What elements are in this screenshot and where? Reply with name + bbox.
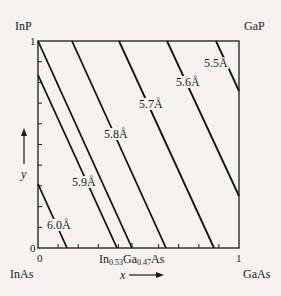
- label-5.9A: 5.9Å: [71, 176, 97, 188]
- x-tick-label-1: 1: [236, 252, 242, 264]
- line-5.8A: [72, 41, 166, 248]
- composition-marker: In0.53Ga0.47As: [99, 253, 164, 269]
- x-tick-label-0: 0: [37, 252, 43, 264]
- y-tick-label-1: 1: [30, 35, 36, 47]
- x-axis-label: x: [120, 269, 125, 281]
- line-5.7A: [119, 41, 214, 248]
- composition-in-sub: 0.53: [109, 258, 123, 267]
- composition-as: As: [151, 252, 164, 266]
- y-axis-label: y: [21, 168, 26, 180]
- y-arrow-icon: [21, 128, 27, 164]
- label-6.0A: 6.0Å: [46, 219, 72, 231]
- line-6.0A: [38, 184, 67, 248]
- x-axis-ticks: [58, 243, 219, 248]
- y-tick-label-0: 0: [30, 242, 36, 254]
- label-5.7A: 5.7Å: [138, 98, 164, 110]
- composition-ga-sub: 0.47: [137, 258, 151, 267]
- x-arrow-icon: [129, 272, 164, 278]
- label-5.6A: 5.6Å: [175, 76, 201, 88]
- corner-label-gap: GaP: [244, 20, 265, 32]
- corner-label-gaas: GaAs: [243, 268, 270, 280]
- composition-ga: Ga: [123, 252, 137, 266]
- corner-label-inp: InP: [15, 20, 32, 32]
- corner-label-inas: InAs: [10, 268, 33, 280]
- composition-in: In: [99, 252, 109, 266]
- label-5.8A: 5.8Å: [103, 128, 129, 140]
- plot-frame: [38, 41, 239, 248]
- label-5.5A: 5.5Å: [203, 57, 229, 69]
